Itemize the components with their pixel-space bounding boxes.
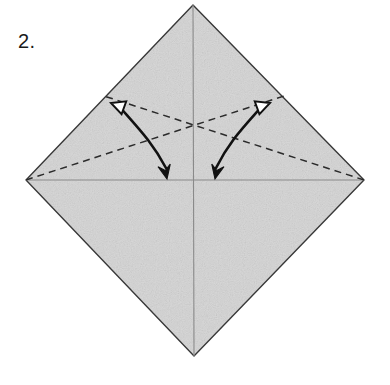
step-number-label: 2. [18,31,36,51]
diagram-canvas [0,0,390,385]
origami-diagram: 2. [0,0,390,385]
